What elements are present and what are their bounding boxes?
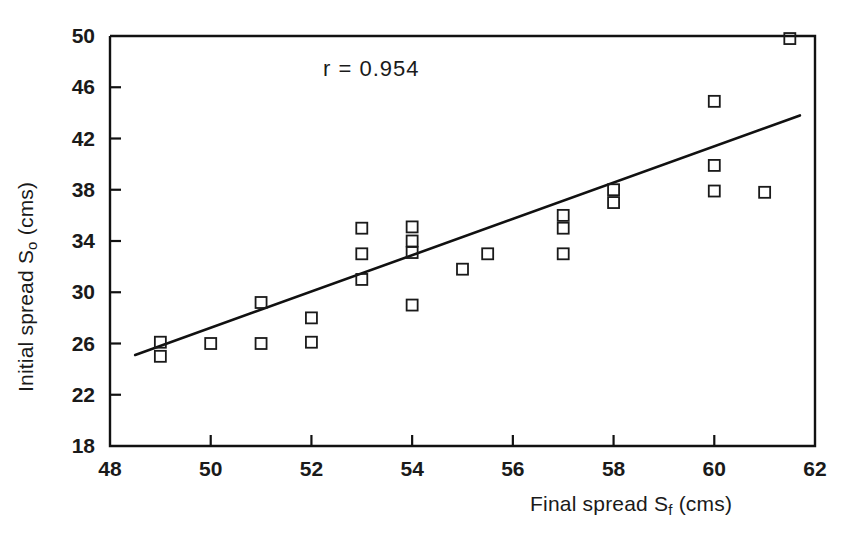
y-tick-label: 22	[72, 383, 95, 406]
y-tick-label: 30	[72, 280, 95, 303]
x-tick-label: 60	[703, 457, 726, 480]
y-tick-label: 50	[72, 24, 95, 47]
y-tick-label: 18	[72, 434, 96, 457]
data-point-marker	[356, 223, 367, 234]
data-point-marker	[558, 223, 569, 234]
data-point-marker	[608, 197, 619, 208]
data-point-marker	[155, 351, 166, 362]
data-point-marker	[306, 312, 317, 323]
x-tick-label: 54	[400, 457, 424, 480]
y-axis-tick-labels: 182226303438424650	[72, 24, 96, 457]
regression-line	[135, 115, 800, 355]
data-point-marker	[356, 248, 367, 259]
data-point-marker	[558, 248, 569, 259]
data-point-marker	[457, 264, 468, 275]
y-axis-title-pre: Initial spread S	[14, 250, 37, 392]
x-axis-title-post: (cms)	[673, 492, 733, 515]
data-point-marker	[407, 236, 418, 247]
data-point-marker	[407, 221, 418, 232]
y-axis-title: Initial spread So (cms)	[14, 182, 40, 392]
x-tick-label: 50	[199, 457, 222, 480]
data-point-marker	[306, 337, 317, 348]
x-axis-title: Final spread Sf (cms)	[530, 492, 732, 518]
y-tick-label: 42	[72, 127, 95, 150]
x-tick-label: 56	[501, 457, 524, 480]
data-point-marker	[256, 338, 267, 349]
x-axis-ticks	[211, 435, 715, 446]
data-point-marker	[784, 33, 795, 44]
scatter-chart-figure: 182226303438424650 4850525456586062 r = …	[0, 0, 849, 548]
data-point-marker	[709, 96, 720, 107]
data-point-marker	[482, 248, 493, 259]
y-tick-label: 34	[72, 229, 96, 252]
data-point-marker	[205, 338, 216, 349]
data-point-marker	[709, 160, 720, 171]
y-tick-label: 26	[72, 332, 95, 355]
data-point-marker	[407, 300, 418, 311]
y-axis-ticks	[110, 87, 121, 395]
data-point-marker	[608, 184, 619, 195]
data-point-marker	[256, 297, 267, 308]
y-tick-label: 38	[72, 178, 96, 201]
x-tick-label: 58	[602, 457, 626, 480]
regression-line-group	[135, 115, 800, 355]
data-point-marker	[759, 187, 770, 198]
y-tick-label: 46	[72, 75, 95, 98]
correlation-annotation: r = 0.954	[323, 56, 419, 82]
x-tick-label: 48	[98, 457, 122, 480]
data-point-marker	[709, 186, 720, 197]
x-tick-label: 52	[300, 457, 323, 480]
x-tick-label: 62	[803, 457, 826, 480]
data-point-marker	[558, 210, 569, 221]
y-axis-title-subscript: o	[23, 241, 40, 250]
x-axis-title-pre: Final spread S	[530, 492, 668, 515]
plot-canvas: 182226303438424650 4850525456586062	[0, 0, 849, 548]
x-axis-tick-labels: 4850525456586062	[98, 457, 826, 480]
y-axis-title-post: (cms)	[14, 182, 37, 242]
